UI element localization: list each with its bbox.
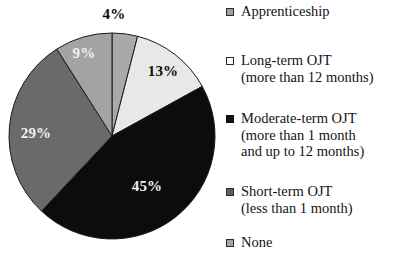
- legend-label-main-short-term-ojt: Short-term OJT: [241, 183, 332, 199]
- pie-chart-svg: 4%13%45%29%9%: [0, 0, 226, 262]
- legend-swatch-short-term-ojt: [226, 188, 234, 196]
- legend-label-main-long-term-ojt: Long-term OJT: [241, 52, 332, 68]
- legend-label-main-apprenticeship: Apprenticeship: [241, 3, 330, 19]
- legend-label-detail-short-term-ojt: (less than 1 month): [241, 200, 353, 217]
- legend-label-apprenticeship: Apprenticeship: [241, 3, 330, 20]
- pie-slice-label-short-term-ojt: 29%: [21, 125, 52, 141]
- legend-label-main-moderate-term-ojt: Moderate-term OJT: [241, 110, 357, 126]
- legend-swatch-apprenticeship: [226, 8, 234, 16]
- chart-legend: ApprenticeshipLong-term OJT(more than 12…: [226, 0, 404, 262]
- legend-swatch-long-term-ojt: [226, 57, 234, 65]
- legend-label-none: None: [241, 234, 272, 251]
- pie-slice-label-moderate-term-ojt: 45%: [132, 178, 163, 194]
- pie-chart-figure: 4%13%45%29%9% ApprenticeshipLong-term OJ…: [0, 0, 404, 262]
- pie-slice-label-long-term-ojt: 13%: [148, 63, 179, 79]
- legend-label-short-term-ojt: Short-term OJT(less than 1 month): [241, 183, 353, 216]
- pie-chart-plot-area: 4%13%45%29%9%: [0, 0, 226, 262]
- legend-label-long-term-ojt: Long-term OJT(more than 12 months): [241, 52, 374, 85]
- legend-item-moderate-term-ojt[interactable]: Moderate-term OJT(more than 1 monthand u…: [226, 110, 364, 160]
- pie-slice-label-none: 9%: [73, 45, 96, 61]
- legend-label-detail-moderate-term-ojt: and up to 12 months): [241, 143, 364, 160]
- legend-item-long-term-ojt[interactable]: Long-term OJT(more than 12 months): [226, 52, 374, 85]
- legend-label-detail-moderate-term-ojt: (more than 1 month: [241, 127, 364, 144]
- legend-label-main-none: None: [241, 234, 272, 250]
- legend-swatch-none: [226, 239, 234, 247]
- legend-item-apprenticeship[interactable]: Apprenticeship: [226, 3, 330, 20]
- legend-label-detail-long-term-ojt: (more than 12 months): [241, 69, 374, 86]
- legend-item-none[interactable]: None: [226, 234, 272, 251]
- legend-item-short-term-ojt[interactable]: Short-term OJT(less than 1 month): [226, 183, 353, 216]
- pie-slice-label-apprenticeship: 4%: [103, 6, 126, 22]
- legend-label-moderate-term-ojt: Moderate-term OJT(more than 1 monthand u…: [241, 110, 364, 160]
- legend-swatch-moderate-term-ojt: [226, 115, 234, 123]
